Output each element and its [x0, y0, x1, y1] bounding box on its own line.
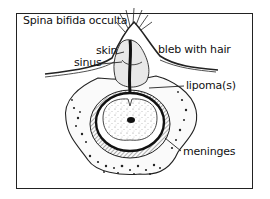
label-lipomas: lipoma(s)	[186, 79, 236, 92]
sinus-tract	[129, 40, 130, 92]
label-bleb-with-hair: bleb with hair	[158, 43, 231, 56]
spina-bifida-illustration	[0, 0, 270, 199]
central-canal	[127, 117, 135, 123]
label-sinus: sinus	[74, 56, 101, 69]
hair-tuft	[116, 8, 152, 32]
label-meninges: meninges	[183, 145, 235, 158]
